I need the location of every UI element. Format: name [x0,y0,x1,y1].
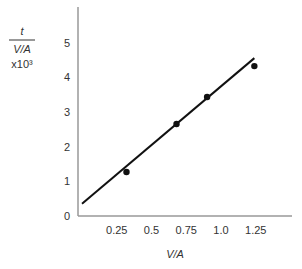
y-tick-label: 0 [64,210,70,222]
y-tick-label: 2 [64,141,70,153]
x-tick-label: 0.25 [106,224,127,236]
x-tick-label: 1.0 [213,224,228,236]
x-tick-label: 0.75 [176,224,197,236]
x-axis-label: V/A [166,248,184,260]
y-tick-label: 3 [64,106,70,118]
data-point [173,121,179,127]
data-point [251,63,257,69]
x-tick-labels: 0.250.50.751.01.25 [106,224,266,236]
y-tick-labels: 012345 [64,37,70,223]
plot-area [82,58,258,204]
y-label-multiplier: x10³ [11,58,33,70]
x-tick-label: 1.25 [245,224,266,236]
y-tick-label: 4 [64,71,70,83]
x-tick-label: 0.5 [144,224,159,236]
data-point [204,94,210,100]
y-tick-label: 1 [64,175,70,187]
fit-line [82,58,254,204]
data-point [123,169,129,175]
y-label-denominator: V/A [13,43,31,55]
chart: t V/A x10³ 012345 0.250.50.751.01.25 V/A [0,0,302,269]
y-label-numerator: t [20,25,24,37]
y-tick-label: 5 [64,37,70,49]
y-axis-label: t V/A x10³ [9,25,35,70]
